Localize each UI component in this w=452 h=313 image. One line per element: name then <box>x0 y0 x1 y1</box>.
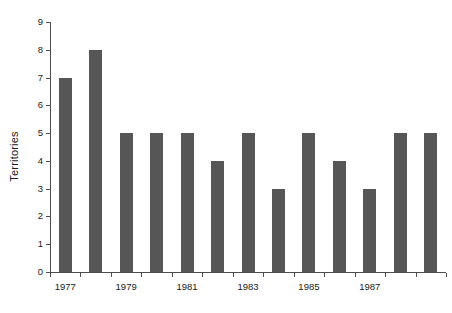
bar <box>242 133 255 272</box>
y-tick-mark <box>46 22 50 23</box>
y-tick-label: 1 <box>38 239 43 249</box>
x-tick-mark <box>385 273 386 277</box>
bar <box>272 189 285 272</box>
y-tick-label: 7 <box>38 73 43 83</box>
y-tick-mark <box>46 189 50 190</box>
x-tick-mark <box>80 273 81 277</box>
x-tick-mark <box>446 273 447 277</box>
x-tick-label: 1985 <box>298 282 319 292</box>
bar <box>394 133 407 272</box>
bar <box>424 133 437 272</box>
x-tick-mark <box>50 273 51 277</box>
x-tick-mark <box>141 273 142 277</box>
bar <box>120 133 133 272</box>
y-tick-label: 0 <box>38 267 43 277</box>
y-tick-mark <box>46 78 50 79</box>
x-tick-mark <box>294 273 295 277</box>
y-tick-label: 2 <box>38 212 43 222</box>
y-axis-title: Territories <box>0 0 28 313</box>
x-tick-mark <box>416 273 417 277</box>
y-tick-label: 8 <box>38 45 43 55</box>
bar <box>211 161 224 272</box>
x-tick-label: 1987 <box>359 282 380 292</box>
x-tick-label: 1977 <box>55 282 76 292</box>
x-tick-mark <box>202 273 203 277</box>
x-tick-mark <box>111 273 112 277</box>
x-tick-label: 1979 <box>116 282 137 292</box>
y-tick-mark <box>46 161 50 162</box>
bar <box>150 133 163 272</box>
x-tick-mark <box>233 273 234 277</box>
x-axis-ticks: 197719791981198319851987 <box>50 273 446 313</box>
y-tick-label: 9 <box>38 17 43 27</box>
x-tick-mark <box>263 273 264 277</box>
bar <box>302 133 315 272</box>
y-tick-label: 4 <box>38 156 43 166</box>
x-tick-label: 1983 <box>237 282 258 292</box>
bar <box>59 78 72 272</box>
x-tick-mark <box>324 273 325 277</box>
bar-chart-figure: Territories 0123456789 19771979198119831… <box>0 0 452 313</box>
y-tick-label: 3 <box>38 184 43 194</box>
y-tick-mark <box>46 50 50 51</box>
x-tick-mark <box>355 273 356 277</box>
y-tick-label: 5 <box>38 128 43 138</box>
y-tick-mark <box>46 133 50 134</box>
y-tick-mark <box>46 105 50 106</box>
bar <box>181 133 194 272</box>
y-tick-mark <box>46 216 50 217</box>
y-tick-mark <box>46 244 50 245</box>
bar <box>89 50 102 272</box>
y-tick-label: 6 <box>38 101 43 111</box>
bar <box>363 189 376 272</box>
plot-area: 0123456789 <box>50 22 446 272</box>
x-tick-mark <box>172 273 173 277</box>
x-tick-label: 1981 <box>176 282 197 292</box>
bar <box>333 161 346 272</box>
